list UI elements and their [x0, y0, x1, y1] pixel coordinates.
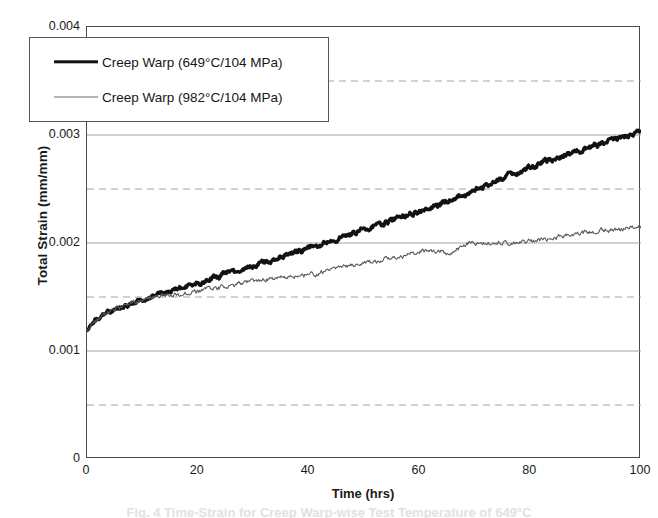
- chart-legend: Creep Warp (649°C/104 MPa) Creep Warp (9…: [29, 37, 329, 122]
- x-tick-label: 80: [499, 463, 559, 477]
- legend-swatch-line-icon-0: [54, 56, 98, 68]
- legend-item-1: Creep Warp (982°C/104 MPa): [30, 84, 328, 110]
- x-tick-label: 40: [278, 463, 338, 477]
- legend-swatch-line-icon-1: [54, 91, 98, 103]
- legend-label-1: Creep Warp (982°C/104 MPa): [102, 90, 282, 105]
- y-tick-label: 0.003: [24, 128, 80, 141]
- y-tick-label: 0.001: [24, 344, 80, 357]
- y-tick-label: 0.002: [24, 236, 80, 249]
- creep-strain-chart: Total Strain (mm/mm) 00.0010.0020.0030.0…: [0, 0, 658, 518]
- legend-label-0: Creep Warp (649°C/104 MPa): [102, 55, 282, 70]
- figure-caption-cropped: Fig. 4 Time-Strain for Creep Warp-wise T…: [0, 505, 658, 518]
- x-tick-label: 20: [167, 463, 227, 477]
- x-tick-label: 0: [56, 463, 116, 477]
- x-tick-label: 60: [388, 463, 448, 477]
- x-tick-label: 100: [610, 463, 658, 477]
- series-line-1: [87, 226, 641, 331]
- series-line-0: [87, 130, 641, 330]
- y-tick-label: 0.004: [24, 20, 80, 33]
- x-axis-title: Time (hrs): [86, 486, 640, 501]
- legend-item-0: Creep Warp (649°C/104 MPa): [30, 49, 328, 75]
